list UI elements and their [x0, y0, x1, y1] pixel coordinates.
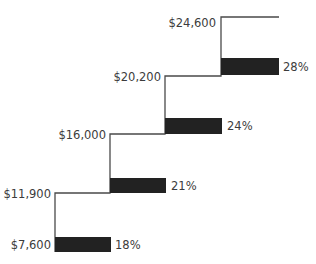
staircase-chart: $7,600 $11,900 $16,000 $20,200 $24,600 1… [0, 0, 316, 264]
percent-label-4: 28% [283, 60, 309, 74]
bar-28-percent [221, 58, 279, 75]
value-label-2: $11,900 [3, 187, 51, 201]
percent-label-3: 24% [227, 119, 253, 133]
bar-18-percent [55, 237, 111, 252]
value-label-5: $24,600 [168, 16, 216, 30]
percent-label-1: 18% [115, 238, 141, 252]
bar-21-percent [110, 178, 166, 193]
percent-label-2: 21% [171, 179, 197, 193]
value-label-4: $20,200 [113, 70, 161, 84]
value-label-3: $16,000 [58, 128, 106, 142]
value-label-1: $7,600 [11, 238, 51, 252]
bar-24-percent [165, 118, 222, 134]
